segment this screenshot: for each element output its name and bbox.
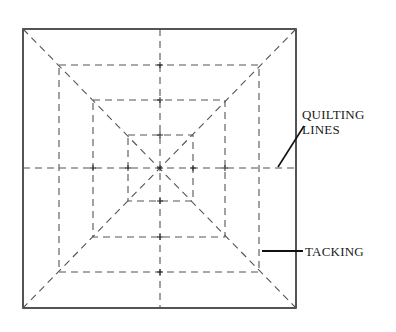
- quilting-label-line2: LINES: [302, 122, 365, 137]
- quilting-leader: [278, 126, 304, 167]
- quilting-label-line1: QUILTING: [302, 107, 365, 122]
- quilting-lines-label: QUILTING LINES: [302, 107, 365, 137]
- tacking-label: TACKING: [305, 244, 364, 259]
- quilt-diagram: [0, 0, 396, 332]
